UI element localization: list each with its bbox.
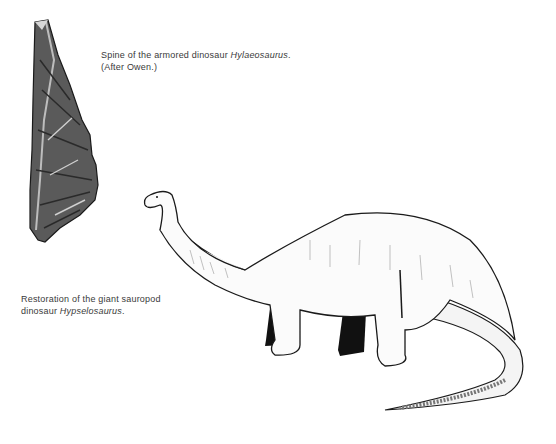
- hylaeosaurus-spine-illustration: [30, 20, 98, 242]
- spine-caption: Spine of the armored dinosaur Hylaeosaur…: [101, 49, 291, 73]
- taxon-name: Hypselosaurus: [60, 306, 122, 316]
- caption-punct: .: [122, 306, 125, 316]
- taxon-name: Hylaeosaurus: [231, 50, 288, 60]
- caption-text: Spine of the armored dinosaur: [101, 50, 231, 60]
- caption-text: Restoration of the giant sauropod: [21, 294, 161, 304]
- caption-text: dinosaur: [21, 306, 60, 316]
- hypselosaurus-illustration: [145, 192, 523, 411]
- caption-punct: .: [288, 50, 291, 60]
- sauropod-caption: Restoration of the giant sauropod dinosa…: [21, 293, 161, 317]
- caption-attribution: (After Owen.): [101, 62, 157, 72]
